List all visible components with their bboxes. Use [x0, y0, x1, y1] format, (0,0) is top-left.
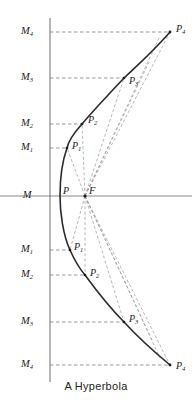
label-p3-bottom-base: P — [128, 313, 135, 324]
svg-text:P1: P1 — [73, 241, 83, 253]
construction-rays — [85, 36, 160, 358]
point-marker-p4-bottom — [169, 364, 172, 367]
label-p3-top-sub: 3 — [134, 80, 139, 87]
curve-point-labels: P4 P3 P2 P1 P P1 P2 P3 P — [62, 23, 186, 372]
svg-text:P3: P3 — [128, 313, 139, 325]
point-marker-p3-top — [123, 77, 126, 80]
construction-ray-2 — [85, 60, 150, 196]
directrix-labels: M4 M3 M2 M1 M M1 M2 M3 M — [20, 25, 34, 370]
label-p4-top-base: P — [175, 23, 182, 34]
ordinate-dashed-lines — [50, 32, 170, 365]
svg-text:M3: M3 — [20, 315, 34, 327]
svg-text:M4: M4 — [20, 358, 34, 370]
focal-radii-dashed-lines — [67, 32, 170, 365]
point-marker-focus — [83, 194, 86, 197]
label-p2-top-base: P — [87, 114, 94, 125]
point-marker-p1-top — [66, 147, 69, 150]
focal-radius-p1-top — [67, 148, 85, 196]
label-m4-bottom-sub: 4 — [30, 363, 34, 370]
point-marker-p2-top — [81, 123, 84, 126]
label-m4-top-sub: 4 — [30, 30, 34, 37]
svg-text:P: P — [62, 185, 69, 196]
point-marker-p1-bottom — [69, 249, 72, 252]
label-p1-top-base: P — [71, 140, 78, 151]
svg-text:M4: M4 — [20, 25, 34, 37]
svg-text:P4: P4 — [175, 360, 186, 372]
label-focus-f: F — [88, 185, 96, 196]
svg-text:P2: P2 — [87, 114, 98, 126]
focal-radius-p4-bottom — [85, 196, 170, 365]
focal-radius-p3-top — [85, 78, 124, 196]
label-p2-bottom-base: P — [89, 267, 96, 278]
label-p1-bottom-sub: 1 — [80, 246, 83, 253]
svg-text:M3: M3 — [20, 71, 34, 83]
point-marker-p4-top — [169, 31, 172, 34]
svg-text:P3: P3 — [128, 75, 139, 87]
hyperbola-diagram: M4 M3 M2 M1 M M1 M2 M3 M — [0, 0, 192, 401]
label-m3-bottom-sub: 3 — [29, 320, 34, 327]
label-vertex-p-base: P — [62, 185, 69, 196]
focal-radius-p3-bottom — [85, 196, 124, 322]
point-marker-p3-bottom — [123, 321, 126, 324]
label-p3-top-base: P — [128, 75, 135, 86]
svg-text:P1: P1 — [71, 140, 81, 152]
hyperbola-curve — [60, 32, 170, 365]
svg-text:M1: M1 — [20, 243, 33, 255]
label-m1-top-sub: 1 — [30, 146, 33, 153]
hyperbola-figure-container: M4 M3 M2 M1 M M1 M2 M3 M — [0, 0, 192, 401]
label-p3-bottom-sub: 3 — [134, 318, 139, 325]
label-p4-top-sub: 4 — [182, 28, 186, 35]
label-m3-top-sub: 3 — [29, 76, 34, 83]
svg-text:M2: M2 — [20, 268, 34, 280]
label-p2-top-sub: 2 — [94, 119, 98, 126]
svg-text:P4: P4 — [175, 23, 186, 35]
point-marker-p2-bottom — [84, 274, 87, 277]
figure-caption: A Hyperbola — [64, 380, 128, 392]
svg-text:M: M — [22, 189, 33, 200]
label-m-axis-base: M — [22, 189, 33, 200]
label-m1-bottom-sub: 1 — [30, 248, 33, 255]
label-p4-bottom-sub: 4 — [182, 365, 186, 372]
label-p1-bottom-base: P — [73, 241, 80, 252]
label-m2-top-sub: 2 — [30, 122, 34, 129]
focal-radius-p4-top — [85, 32, 170, 196]
svg-text:M2: M2 — [20, 117, 34, 129]
label-p2-bottom-sub: 2 — [96, 272, 100, 279]
svg-text:P2: P2 — [89, 267, 100, 279]
label-p1-top-sub: 1 — [78, 145, 81, 152]
label-p4-bottom-base: P — [175, 360, 182, 371]
label-m2-bottom-sub: 2 — [30, 273, 34, 280]
svg-text:M1: M1 — [20, 141, 33, 153]
focal-radius-p2-top — [82, 124, 85, 196]
